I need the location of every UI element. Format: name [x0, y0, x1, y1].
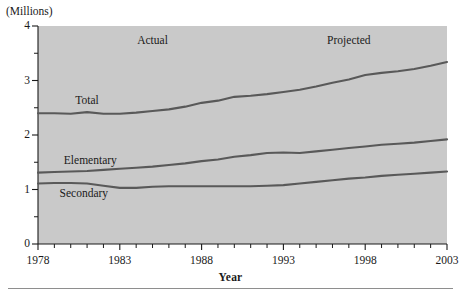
chart-figure: (Millions) 01234 19781983198819931998200… [0, 0, 461, 295]
plot-annotations: ActualProjectedTotalElementarySecondary [0, 0, 461, 295]
annotation-actual: Actual [137, 34, 168, 46]
x-axis-title: Year [0, 271, 461, 283]
annotation-elementary: Elementary [64, 154, 117, 166]
annotation-total: Total [75, 94, 98, 106]
annotation-projected: Projected [327, 34, 370, 46]
annotation-secondary: Secondary [60, 187, 109, 199]
footer-rule [8, 288, 453, 289]
